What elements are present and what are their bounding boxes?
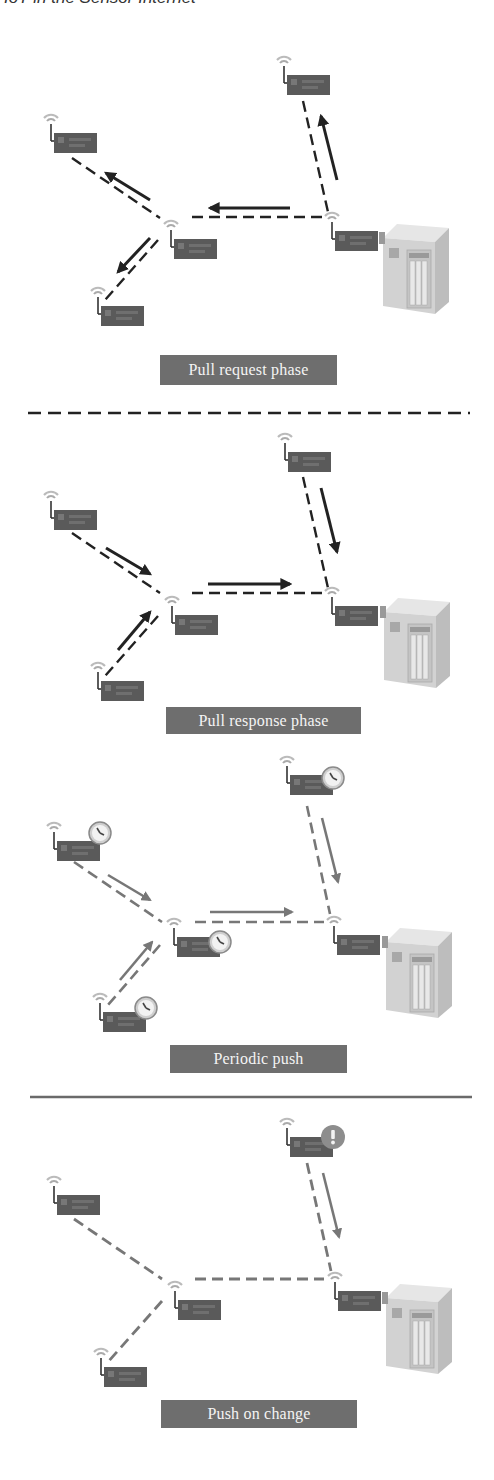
- sensor-network-diagram: [0, 0, 494, 1480]
- gateway-node: [325, 213, 378, 251]
- sensor-node-bottom: [94, 1349, 147, 1387]
- gateway-node: [328, 1273, 381, 1311]
- sensor-node-top: [277, 57, 330, 95]
- dashed-links: [72, 477, 328, 676]
- sensor-node-top: [278, 434, 331, 472]
- panel-periodic-push: [47, 757, 452, 1032]
- sensor-node-center: [165, 597, 218, 635]
- label-pull-response: Pull response phase: [166, 707, 361, 734]
- sensor-node-left: [44, 115, 97, 153]
- server-icon: [379, 224, 449, 314]
- label-pull-request: Pull request phase: [160, 355, 337, 385]
- dashed-links: [74, 1163, 331, 1362]
- arrow-to-left-node: [106, 173, 150, 200]
- flow-arrows: [106, 488, 337, 650]
- flow-arrows: [323, 1173, 339, 1237]
- exclamation-icon: [321, 1125, 345, 1149]
- clock-icon: [89, 822, 111, 844]
- panel-push-on-change: [47, 1119, 452, 1387]
- gateway-node: [327, 917, 380, 955]
- clock-icon: [135, 997, 157, 1019]
- arrow-top-to-gateway: [321, 488, 337, 552]
- server-icon: [382, 928, 452, 1018]
- arrow-top-to-gateway: [322, 818, 338, 882]
- sensor-node-center: [168, 1282, 221, 1320]
- flow-arrows: [106, 116, 337, 272]
- flow-arrows: [108, 818, 338, 980]
- server-icon: [380, 598, 450, 688]
- arrow-left-to-center: [108, 875, 150, 900]
- clock-icon: [322, 767, 344, 789]
- panel-pull-request: [44, 57, 449, 326]
- label-periodic-push: Periodic push: [170, 1045, 347, 1073]
- sensor-node-bottom: [91, 663, 144, 701]
- clock-icon: [209, 931, 231, 953]
- sensor-node-left: [44, 492, 97, 530]
- sensor-node-center: [164, 221, 217, 259]
- sensor-node-bottom: [91, 288, 144, 326]
- arrow-to-top-node: [321, 116, 337, 180]
- gateway-node: [325, 588, 378, 626]
- arrow-left-to-center: [106, 548, 150, 574]
- dashed-links: [72, 101, 328, 300]
- arrow-top-to-gateway: [323, 1173, 339, 1237]
- panel-pull-response: [44, 434, 450, 701]
- sensor-node-left: [47, 1177, 100, 1215]
- dashed-links: [74, 806, 330, 1005]
- label-push-on-change: Push on change: [161, 1400, 357, 1428]
- server-icon: [382, 1284, 452, 1374]
